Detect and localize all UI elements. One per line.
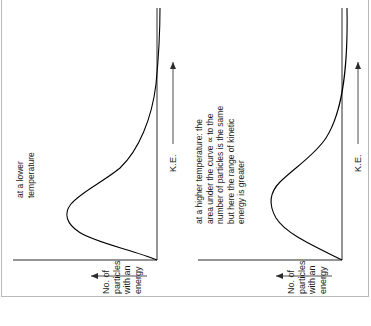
annotation-higher-line4: but here the range of kinetic (225, 105, 236, 223)
y-axis-arrow-head-lower (91, 273, 98, 279)
panel-higher-temperature: K.E. No. of particles with an energy at … (187, 0, 371, 297)
distribution-curve-lower (66, 8, 159, 260)
x-axis-label-higher: K.E. (353, 154, 363, 172)
chart-lower-temperature: K.E. No. of particles with an energy at … (5, 4, 185, 294)
annotation-lower-line2: temperature (25, 152, 36, 198)
y-axis-label-lower-line4: energy (132, 260, 143, 294)
y-axis-label-lower-line3: with an (122, 260, 133, 294)
distribution-curve-higher (271, 8, 347, 260)
annotation-lower-temperature: at a lower temperature (15, 152, 36, 198)
x-axis-arrow-head-higher (355, 62, 361, 69)
plot-area-higher: K.E. No. of particles with an energy at … (190, 4, 370, 294)
y-axis-label-higher-line1: No. of (286, 260, 297, 294)
y-axis-label-higher-line3: with an (307, 260, 318, 294)
plot-area-lower: K.E. No. of particles with an energy at … (5, 4, 185, 294)
y-axis-label-lower-line1: No. of (101, 260, 112, 294)
y-axis-label-lower: No. of particles with an energy (101, 260, 143, 294)
chart-higher-temperature: K.E. No. of particles with an energy at … (190, 4, 370, 294)
axes-and-curve-lower (5, 4, 185, 294)
y-axis-label-higher-line2: particles (296, 260, 307, 294)
annotation-higher-line1: at a higher temperature: the (194, 105, 205, 223)
annotation-higher-line2: area under the curve ∝ to the (204, 105, 215, 223)
x-axis-arrow-head-lower (170, 62, 176, 69)
figure-page: K.E. No. of particles with an energy at … (0, 0, 371, 326)
annotation-higher-temperature: at a higher temperature: the area under … (194, 105, 247, 223)
panel-lower-temperature: K.E. No. of particles with an energy at … (2, 0, 187, 297)
annotation-higher-line5: energy is greater (236, 105, 247, 223)
y-axis-label-higher-line4: energy (317, 260, 328, 294)
y-axis-label-higher: No. of particles with an energy (286, 260, 328, 294)
y-axis-label-lower-line2: particles (111, 260, 122, 294)
y-axis-arrow-head-higher (276, 273, 283, 279)
annotation-lower-line1: at a lower (15, 152, 26, 198)
x-axis-label-lower: K.E. (168, 154, 178, 172)
figure-frame: K.E. No. of particles with an energy at … (1, 0, 369, 297)
annotation-higher-line3: number of particles is the same (215, 105, 226, 223)
